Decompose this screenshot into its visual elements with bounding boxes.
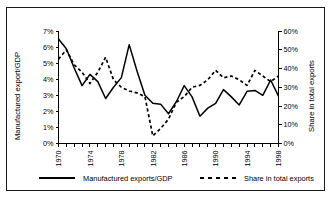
- series-plot-lines: [59, 39, 279, 136]
- y2-axis-ticks: 0%10%20%30%40%50%60%: [279, 27, 299, 149]
- line-chart: Manufactured export/GDP Share in total e…: [7, 8, 324, 190]
- y-tick-label: 5%: [43, 59, 54, 68]
- y2-tick-label: 40%: [284, 64, 299, 73]
- y-tick-label: 6%: [43, 43, 54, 52]
- y-tick-label: 1%: [43, 123, 54, 132]
- chart-frame: Manufactured export/GDP Share in total e…: [6, 7, 325, 191]
- x-axis-ticks: 19701974197819821986199019941998: [54, 144, 283, 167]
- y-tick-label: 7%: [43, 27, 54, 36]
- y-axis-title-label: Manufactured export/GDP: [13, 52, 22, 140]
- x-tick-label: 1982: [149, 151, 158, 167]
- x-tick-label: 1974: [86, 151, 95, 167]
- y-tick-label: 4%: [43, 75, 54, 84]
- y2-tick-label: 50%: [284, 45, 299, 54]
- x-tick-label: 1978: [117, 151, 126, 167]
- y-tick-label: 2%: [43, 107, 54, 116]
- y2-axis-title: Share in total exports: [307, 60, 316, 132]
- x-tick-label: 1994: [243, 151, 252, 167]
- y2-tick-label: 20%: [284, 102, 299, 111]
- x-tick-label: 1990: [211, 151, 220, 167]
- legend-label-share-total-exports: Share in total exports: [244, 174, 314, 183]
- x-tick-label: 1986: [180, 151, 189, 167]
- y-axis-ticks: 0%1%2%3%4%5%6%7%: [43, 27, 58, 149]
- y-axis-title: Manufactured export/GDP: [13, 52, 22, 140]
- y2-tick-label: 30%: [284, 83, 299, 92]
- y-tick-label: 3%: [43, 91, 54, 100]
- x-tick-label: 1970: [54, 151, 63, 167]
- chart-legend: Manufactured exports/GDP Share in total …: [39, 174, 314, 183]
- series-line-manufactured-exports-gdp: [59, 39, 279, 116]
- y2-tick-label: 60%: [284, 27, 299, 36]
- y2-tick-label: 0%: [284, 139, 295, 148]
- y2-tick-label: 10%: [284, 120, 299, 129]
- legend-label-manufactured-exports: Manufactured exports/GDP: [83, 174, 173, 183]
- x-tick-label: 1998: [274, 151, 283, 167]
- y-tick-label: 0%: [43, 139, 54, 148]
- y2-axis-title-label: Share in total exports: [307, 60, 316, 132]
